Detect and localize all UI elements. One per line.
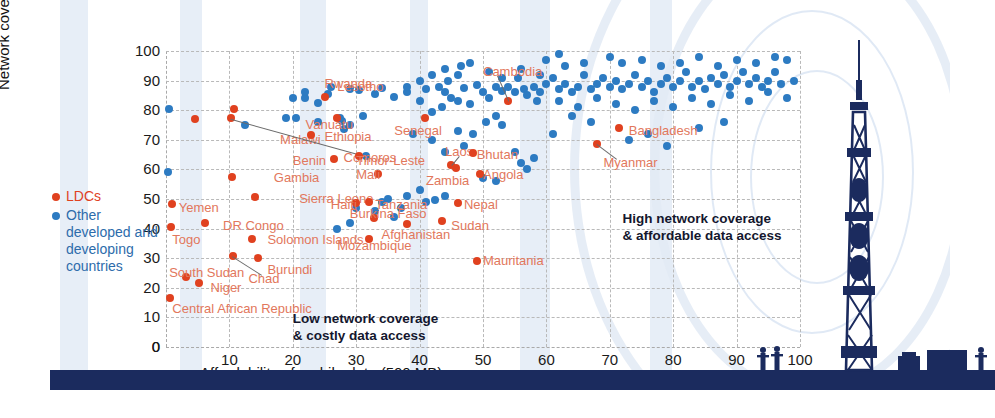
data-point-other[interactable] bbox=[555, 97, 563, 105]
data-point-other[interactable] bbox=[568, 112, 576, 120]
data-point-other[interactable] bbox=[533, 97, 541, 105]
data-point-other[interactable] bbox=[454, 71, 462, 79]
data-point-other[interactable] bbox=[625, 80, 633, 88]
data-point-other[interactable] bbox=[431, 196, 439, 204]
data-point-other[interactable] bbox=[606, 53, 614, 61]
data-point-other[interactable] bbox=[618, 59, 626, 67]
data-point-other[interactable] bbox=[422, 85, 430, 93]
data-point-ldc[interactable] bbox=[365, 198, 373, 206]
data-point-ldc[interactable] bbox=[330, 155, 338, 163]
data-point-ldc[interactable] bbox=[615, 124, 623, 132]
data-point-other[interactable] bbox=[739, 68, 747, 76]
data-point-other[interactable] bbox=[745, 80, 753, 88]
data-point-other[interactable] bbox=[688, 83, 696, 91]
data-point-other[interactable] bbox=[669, 83, 677, 91]
data-point-other[interactable] bbox=[726, 91, 734, 99]
data-point-other[interactable] bbox=[764, 88, 772, 96]
data-point-other[interactable] bbox=[457, 62, 465, 70]
data-point-other[interactable] bbox=[536, 88, 544, 96]
data-point-other[interactable] bbox=[523, 165, 531, 173]
data-point-ldc[interactable] bbox=[473, 257, 481, 265]
data-point-other[interactable] bbox=[714, 80, 722, 88]
data-point-other[interactable] bbox=[164, 168, 172, 176]
data-point-other[interactable] bbox=[612, 100, 620, 108]
data-point-ldc[interactable] bbox=[321, 93, 329, 101]
data-point-ldc[interactable] bbox=[191, 115, 199, 123]
data-point-other[interactable] bbox=[165, 105, 173, 113]
data-point-other[interactable] bbox=[498, 121, 506, 129]
data-point-other[interactable] bbox=[460, 84, 468, 92]
data-point-other[interactable] bbox=[638, 56, 646, 64]
data-point-other[interactable] bbox=[403, 83, 411, 91]
data-point-other[interactable] bbox=[663, 142, 671, 150]
data-point-other[interactable] bbox=[549, 74, 557, 82]
data-point-other[interactable] bbox=[416, 97, 424, 105]
data-point-other[interactable] bbox=[733, 56, 741, 64]
data-point-other[interactable] bbox=[511, 88, 519, 96]
data-point-other[interactable] bbox=[631, 71, 639, 79]
data-point-other[interactable] bbox=[612, 77, 620, 85]
data-point-other[interactable] bbox=[574, 83, 582, 91]
data-point-other[interactable] bbox=[542, 56, 550, 64]
data-point-other[interactable] bbox=[485, 94, 493, 102]
data-point-other[interactable] bbox=[289, 94, 297, 102]
data-point-other[interactable] bbox=[771, 68, 779, 76]
data-point-other[interactable] bbox=[707, 100, 715, 108]
data-point-other[interactable] bbox=[549, 130, 557, 138]
data-point-other[interactable] bbox=[441, 192, 449, 200]
data-point-other[interactable] bbox=[790, 77, 798, 85]
data-point-other[interactable] bbox=[587, 118, 595, 126]
data-point-other[interactable] bbox=[657, 62, 665, 70]
data-point-ldc[interactable] bbox=[228, 173, 236, 181]
data-point-ldc[interactable] bbox=[452, 164, 460, 172]
data-point-other[interactable] bbox=[650, 88, 658, 96]
data-point-ldc[interactable] bbox=[168, 200, 176, 208]
data-point-other[interactable] bbox=[428, 71, 436, 79]
data-point-other[interactable] bbox=[631, 106, 639, 114]
data-point-other[interactable] bbox=[733, 77, 741, 85]
data-point-other[interactable] bbox=[644, 77, 652, 85]
data-point-other[interactable] bbox=[714, 62, 722, 70]
data-point-other[interactable] bbox=[561, 62, 569, 70]
data-point-other[interactable] bbox=[438, 103, 446, 111]
data-point-other[interactable] bbox=[292, 114, 300, 122]
data-point-other[interactable] bbox=[695, 53, 703, 61]
data-point-other[interactable] bbox=[695, 77, 703, 85]
data-point-other[interactable] bbox=[701, 85, 709, 93]
data-point-other[interactable] bbox=[469, 130, 477, 138]
data-point-other[interactable] bbox=[720, 118, 728, 126]
data-point-other[interactable] bbox=[561, 80, 569, 88]
data-point-other[interactable] bbox=[752, 74, 760, 82]
data-point-other[interactable] bbox=[580, 59, 588, 67]
data-point-other[interactable] bbox=[783, 56, 791, 64]
data-point-other[interactable] bbox=[416, 77, 424, 85]
data-point-other[interactable] bbox=[530, 154, 538, 162]
data-point-other[interactable] bbox=[441, 65, 449, 73]
data-point-other[interactable] bbox=[333, 225, 341, 233]
data-point-ldc[interactable] bbox=[421, 114, 429, 122]
data-point-other[interactable] bbox=[745, 97, 753, 105]
data-point-other[interactable] bbox=[688, 94, 696, 102]
data-point-other[interactable] bbox=[764, 77, 772, 85]
data-point-ldc[interactable] bbox=[167, 223, 175, 231]
data-point-other[interactable] bbox=[771, 53, 779, 61]
data-point-other[interactable] bbox=[580, 71, 588, 79]
data-point-other[interactable] bbox=[682, 68, 690, 76]
legend-item-other[interactable]: Other developed and developing countries bbox=[52, 207, 160, 275]
data-point-other[interactable] bbox=[650, 97, 658, 105]
data-point-other[interactable] bbox=[752, 59, 760, 67]
data-point-other[interactable] bbox=[720, 71, 728, 79]
data-point-other[interactable] bbox=[466, 59, 474, 67]
data-point-other[interactable] bbox=[593, 94, 601, 102]
data-point-other[interactable] bbox=[416, 186, 424, 194]
legend-item-ldcs[interactable]: LDCs bbox=[52, 188, 160, 205]
data-point-other[interactable] bbox=[663, 74, 671, 82]
data-point-other[interactable] bbox=[473, 81, 481, 89]
data-point-other[interactable] bbox=[482, 118, 490, 126]
data-point-other[interactable] bbox=[444, 77, 452, 85]
data-point-other[interactable] bbox=[555, 50, 563, 58]
data-point-other[interactable] bbox=[492, 112, 500, 120]
data-point-other[interactable] bbox=[454, 97, 462, 105]
data-point-ldc[interactable] bbox=[248, 235, 256, 243]
data-point-other[interactable] bbox=[676, 77, 684, 85]
